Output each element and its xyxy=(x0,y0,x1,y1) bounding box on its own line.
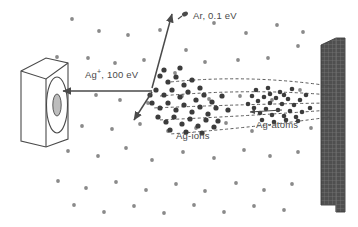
gas-atom-dot xyxy=(113,61,117,65)
ag-ion-dot xyxy=(177,94,182,99)
gas-atom-dot xyxy=(142,58,146,62)
ag-atom-dot xyxy=(292,103,297,108)
gas-atom-dot xyxy=(84,186,88,190)
ag-ion-dot xyxy=(189,77,194,82)
ag-ion-dot xyxy=(169,87,174,92)
gas-atom-dot xyxy=(275,23,279,27)
gas-atom-dot xyxy=(203,189,207,193)
gas-atom-dot xyxy=(236,58,240,62)
ag-ion-dot xyxy=(167,127,172,132)
gas-atom-dot xyxy=(268,154,272,158)
ag-ion-dot xyxy=(205,111,210,116)
ag-ion-dot xyxy=(161,92,166,97)
gas-atom-dot xyxy=(224,121,228,125)
gas-atom-dot xyxy=(298,88,302,92)
ag-atom-dot xyxy=(282,93,287,98)
gas-atom-dot xyxy=(174,182,178,186)
label-ar: Ar, 0.1 eV xyxy=(193,10,237,21)
gas-atom-dot xyxy=(212,21,216,25)
gas-atom-dot xyxy=(132,204,136,208)
ag-atom-dot xyxy=(250,94,255,99)
ag-atom-dot xyxy=(246,102,251,107)
gas-atom-dot xyxy=(266,56,270,60)
ag-atom-dot xyxy=(256,99,261,104)
ag-ion-dot xyxy=(213,105,218,110)
gas-atom-dot xyxy=(110,127,114,131)
gas-atom-dot xyxy=(184,48,188,52)
ag-ion-dot xyxy=(219,93,224,98)
ag-ion-dot xyxy=(179,121,184,126)
ag-atom-dot xyxy=(266,86,271,91)
scatter-down-arrow xyxy=(134,92,152,120)
gas-atom-dot xyxy=(250,129,254,133)
gas-atom-dot xyxy=(192,203,196,207)
gas-atom-dot xyxy=(296,150,300,154)
ag-ion-dot xyxy=(215,118,220,123)
ag-ion-cluster xyxy=(147,65,230,135)
ag-atom-dot xyxy=(304,93,309,98)
ag-ion-dot xyxy=(157,73,162,78)
ag-ion-dot xyxy=(173,107,178,112)
ag-ion-dot xyxy=(163,119,168,124)
ag-ion-dot xyxy=(193,97,198,102)
ag-ion-dot xyxy=(165,79,170,84)
ag-ion-dot xyxy=(173,74,178,79)
gas-atom-dot xyxy=(301,30,305,34)
ag-ion-dot xyxy=(201,92,206,97)
ag-ion-dot xyxy=(181,82,186,87)
argon-particle-icon xyxy=(178,11,189,19)
ag-ion-dot xyxy=(157,105,162,110)
ag-ion-dot xyxy=(195,123,200,128)
diagram-artwork xyxy=(0,0,358,227)
ag-atom-dot xyxy=(282,114,287,119)
gas-atom-dot xyxy=(102,210,106,214)
ag-atom-dot xyxy=(268,101,273,106)
gas-atom-dot xyxy=(244,31,248,35)
ag-ion-dot xyxy=(171,114,176,119)
gas-atom-dot xyxy=(126,33,130,37)
gas-atom-dot xyxy=(203,60,207,64)
gas-atom-dot xyxy=(86,56,90,60)
gas-atom-dot xyxy=(162,211,166,215)
diagram-canvas: Ar, 0.1 eV Ag+, 100 eV Ag-ions Ag-atoms xyxy=(0,0,358,227)
gas-atom-dot xyxy=(124,146,128,150)
ag-ion-dot xyxy=(155,114,160,119)
ag-atom-dot xyxy=(280,102,285,107)
ag-ion-dot xyxy=(187,116,192,121)
ag-ion-dot xyxy=(211,124,216,129)
ag-ion-dot xyxy=(225,107,230,112)
gas-atom-dot xyxy=(181,150,185,154)
label-ag-ion-species: Ag xyxy=(85,69,97,80)
gas-atom-dot xyxy=(252,204,256,208)
gas-atom-dot xyxy=(96,154,100,158)
traj-3 xyxy=(152,103,330,108)
ag-atom-dot xyxy=(270,113,275,118)
ag-ion-dot xyxy=(189,109,194,114)
ag-ion-dot xyxy=(209,99,214,104)
ag-atom-dot xyxy=(308,106,313,111)
gas-atom-dot xyxy=(55,55,59,59)
ag-ion-dot xyxy=(161,67,166,72)
ag-atom-dot xyxy=(252,106,257,111)
ag-atom-dot xyxy=(290,87,295,92)
gas-atom-dot xyxy=(173,71,177,75)
gas-atom-dot xyxy=(56,179,60,183)
gas-atom-dot xyxy=(138,122,142,126)
ag-ion-dot xyxy=(177,65,182,70)
label-ag-ion: Ag+, 100 eV xyxy=(85,69,138,80)
gas-atom-dot xyxy=(296,44,300,48)
gas-atom-dot xyxy=(234,181,238,185)
label-ag-ions: Ag-ions xyxy=(176,130,210,141)
gas-atom-dot xyxy=(242,148,246,152)
gas-atom-dot xyxy=(282,208,286,212)
ag-ion-dot xyxy=(153,87,158,92)
gas-atom-dot xyxy=(66,149,70,153)
ag-ion-dot xyxy=(197,85,202,90)
ag-atom-dot xyxy=(274,96,279,101)
ag-atom-dot xyxy=(286,97,291,102)
gas-atom-dot xyxy=(150,158,154,162)
ag-atom-dot xyxy=(300,110,305,115)
gas-atom-dot xyxy=(144,188,148,192)
ag-ion-dot xyxy=(197,104,202,109)
gas-atom-dot xyxy=(262,188,266,192)
